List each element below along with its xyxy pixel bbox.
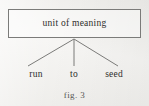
figure-container: unit of meaning run to seed fig. 3 [0, 0, 149, 106]
branch-line-right [74, 39, 118, 66]
leaf-label-to: to [70, 68, 78, 81]
root-node-box: unit of meaning [8, 9, 141, 38]
branch-line-left [28, 39, 74, 66]
leaf-label-seed: seed [105, 68, 123, 81]
figure-caption: fig. 3 [0, 89, 149, 102]
leaf-label-run: run [29, 68, 42, 81]
root-node-label: unit of meaning [43, 18, 107, 28]
